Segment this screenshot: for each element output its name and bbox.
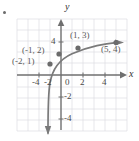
- data-point-marker: [75, 45, 80, 50]
- x-tick-label-zero: 0: [65, 78, 70, 87]
- x-tick-label-4: 4: [102, 78, 107, 87]
- y-axis-label: y: [65, 2, 69, 12]
- point-label-neg2-1: (-2, 1): [12, 57, 35, 66]
- x-axis-label: x: [129, 69, 133, 79]
- data-point-marker: [47, 61, 52, 66]
- y-tick-label-4: 4: [51, 37, 56, 46]
- x-tick-label-neg4: -4: [32, 78, 40, 87]
- x-tick-label-2: 2: [80, 78, 85, 87]
- y-tick-label-neg4: -4: [64, 114, 72, 123]
- point-label-5-4: (5, 4): [101, 45, 121, 54]
- point-label-1-3: (1, 3): [70, 31, 90, 40]
- y-tick-label-neg2: -2: [64, 92, 72, 101]
- x-tick-label-neg2: -2: [44, 78, 52, 87]
- point-label-neg1-2: (-1, 2): [22, 46, 45, 55]
- data-point-marker: [56, 51, 61, 56]
- y-axis-arrowhead: [58, 19, 65, 26]
- x-axis-arrowhead: [120, 72, 127, 79]
- graph-figure: (-2, 1) (-1, 2) (1, 3) (5, 4) -4 -2 0 2 …: [0, 0, 139, 141]
